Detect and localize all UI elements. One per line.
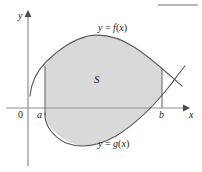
f-eq-close-paren: ): [124, 22, 127, 33]
g-eq-close-paren: ): [126, 138, 129, 149]
left-bound-label-a: a: [37, 110, 42, 120]
upper-curve-equation-label: y = f(x): [98, 23, 127, 33]
right-bound-label-b: b: [159, 110, 164, 120]
figure-region-between-curves: y x 0 a b S y = f(x) y = g(x): [0, 0, 202, 172]
f-eq-operator: =: [102, 22, 113, 33]
y-axis-arrowhead: [25, 10, 32, 17]
region-label-s: S: [94, 74, 100, 85]
shaded-region-s: [45, 35, 162, 146]
origin-label: 0: [18, 110, 23, 120]
lower-curve-equation-label: y = g(x): [98, 139, 129, 149]
x-axis-label: x: [189, 110, 193, 120]
y-axis-label: y: [18, 11, 22, 21]
g-eq-operator: =: [102, 138, 113, 149]
